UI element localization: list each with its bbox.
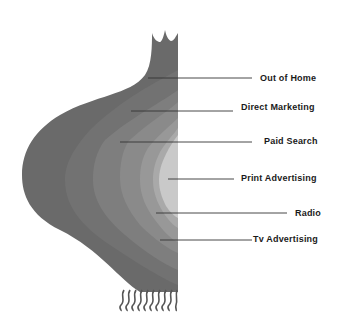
layer-label-radio: Radio bbox=[295, 208, 321, 218]
onion-diagram bbox=[0, 0, 353, 325]
layer-label-print-advertising: Print Advertising bbox=[241, 173, 317, 183]
onion-shape bbox=[22, 30, 178, 292]
layer-label-out-of-home: Out of Home bbox=[260, 73, 316, 83]
layer-label-direct-marketing: Direct Marketing bbox=[241, 102, 315, 112]
layer-label-tv-advertising: Tv Advertising bbox=[253, 234, 318, 244]
onion-roots bbox=[120, 290, 177, 311]
layer-label-paid-search: Paid Search bbox=[264, 136, 318, 146]
